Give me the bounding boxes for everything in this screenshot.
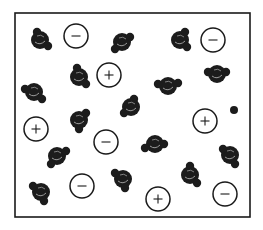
hydrogen-atom [231, 160, 239, 168]
hydrogen-atom [111, 169, 119, 177]
hydrogen-atom [82, 109, 90, 117]
positive-ion: + [146, 187, 170, 211]
hydrogen-atom [29, 182, 37, 190]
hydrogen-atom [126, 33, 134, 41]
hydrogen-atom [204, 68, 212, 76]
water-molecule [111, 169, 132, 192]
hydrogen-atom [44, 42, 52, 50]
hydrogen-atom [40, 197, 48, 205]
positive-ion: + [193, 109, 217, 133]
negative-ion: − [201, 28, 225, 52]
hydrogen-atom [193, 179, 201, 187]
water-molecule [70, 109, 90, 133]
water-molecule [141, 135, 168, 153]
water-molecule [70, 64, 90, 88]
water-molecule [47, 147, 70, 168]
water-molecule [111, 33, 134, 53]
positive-ion: + [97, 63, 121, 87]
hydrogen-atom [174, 79, 182, 87]
solution-diagram: −−++−+−+− [0, 0, 263, 230]
water-molecule [181, 162, 201, 187]
hydrogen-atom [183, 43, 191, 51]
water-molecule [204, 65, 230, 83]
diagram-canvas: −−++−+−+− [0, 0, 263, 230]
water-molecule [154, 77, 182, 95]
hydrogen-atom [154, 80, 162, 88]
hydrogen-atom [219, 145, 227, 153]
hydrogen-atom [73, 64, 81, 72]
hydrogen-atom [111, 45, 119, 53]
water-molecule [21, 83, 46, 103]
hydrogen-atom [47, 160, 55, 168]
hydrogen-atom [181, 28, 189, 36]
water-molecule [29, 182, 50, 205]
hydrogen-atom [62, 147, 70, 155]
hydrogen-atom [141, 144, 149, 152]
hydrogen-atom [160, 140, 168, 148]
small-particle [230, 106, 238, 114]
hydrogen-atom [186, 162, 194, 170]
hydrogen-atom [21, 85, 29, 93]
hydrogen-atom [38, 95, 46, 103]
water-molecule [120, 95, 140, 117]
water-molecule [31, 28, 52, 50]
oxygen-atom [159, 77, 177, 95]
water-molecule [171, 28, 191, 51]
hydrogen-atom [75, 125, 83, 133]
negative-ion: − [64, 24, 88, 48]
hydrogen-atom [82, 80, 90, 88]
water-molecule [219, 145, 239, 168]
particles-group [230, 106, 238, 114]
hydrogen-atom [121, 184, 129, 192]
negative-ion: − [94, 130, 118, 154]
negative-ion: − [70, 174, 94, 198]
hydrogen-atom [222, 68, 230, 76]
negative-ion: − [213, 182, 237, 206]
positive-ion: + [24, 117, 48, 141]
